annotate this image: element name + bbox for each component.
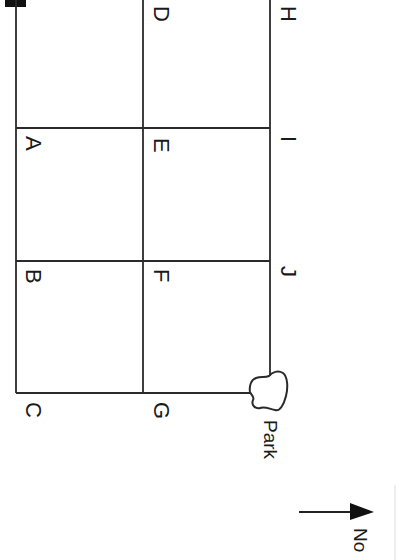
label-h: H	[277, 6, 299, 22]
north-arrow-icon	[350, 503, 374, 520]
label-d: D	[150, 6, 172, 22]
park-label: Park	[261, 420, 280, 459]
label-a: A	[22, 136, 44, 151]
label-c: C	[22, 402, 44, 418]
north-label: No	[351, 528, 370, 552]
park-icon	[250, 372, 287, 411]
label-f: F	[150, 269, 172, 282]
grid-lines	[0, 0, 398, 560]
label-b: B	[22, 269, 44, 284]
label-j: J	[277, 266, 299, 277]
label-i: I	[277, 136, 299, 142]
street-grid-map: D H A E I B F J C G Park No	[0, 0, 398, 560]
label-g: G	[150, 402, 172, 419]
label-e: E	[150, 138, 172, 153]
